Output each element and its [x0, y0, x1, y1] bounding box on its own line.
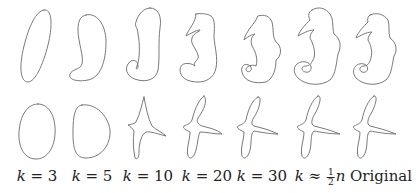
label-k10: k = 10: [123, 167, 173, 187]
seahorse-k20: [180, 14, 217, 82]
seahorse-k5: [70, 15, 106, 81]
bird-khalfn: [297, 96, 340, 158]
seahorse-original: [354, 14, 397, 85]
label-k5: k = 5: [72, 167, 113, 187]
figure: k = 3 k = 5 k = 10 k = 20 k = 30 k ≈ 12n…: [0, 0, 416, 193]
label-k-half-n: k ≈ 12n: [295, 167, 346, 187]
label-original: Original: [350, 167, 412, 187]
label-k20: k = 20: [182, 167, 232, 187]
seahorse-k10: [126, 8, 160, 81]
seahorse-k3: [21, 10, 51, 82]
shape-grid: [0, 0, 416, 193]
bird-original: [353, 96, 396, 158]
bird-k30: [237, 97, 278, 158]
seahorse-k30: [242, 15, 281, 82]
label-k30: k = 30: [237, 167, 287, 187]
bird-k10: [128, 97, 166, 159]
label-k3: k = 3: [17, 167, 58, 187]
bird-k3: [19, 104, 55, 159]
bird-k20: [183, 96, 222, 158]
seahorse-khalfn: [294, 8, 340, 84]
bird-k5: [73, 105, 110, 158]
fraction-one-half: 12: [327, 168, 335, 187]
